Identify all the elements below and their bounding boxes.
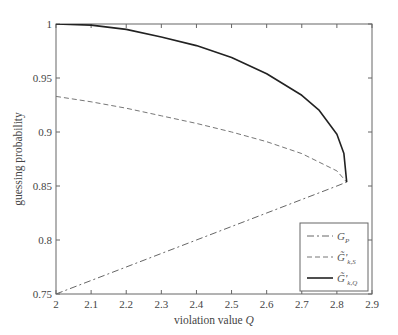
x-tick-label: 2.4 xyxy=(190,298,204,310)
x-tick-label: 2.3 xyxy=(154,298,168,310)
y-tick-label: 0.8 xyxy=(38,234,52,246)
x-tick-label: 2.9 xyxy=(365,298,379,310)
series-gks-line xyxy=(56,96,347,182)
x-tick-label: 2.6 xyxy=(260,298,274,310)
x-tick-label: 2.5 xyxy=(225,298,239,310)
y-axis-label: guessing probability xyxy=(12,112,25,206)
x-tick-label: 2.1 xyxy=(84,298,98,310)
legend: GPG̃'k,SG̃'k,Q xyxy=(300,223,368,291)
y-tick-label: 0.75 xyxy=(33,288,53,300)
y-tick-label: 1 xyxy=(47,18,53,30)
x-axis-label: violation value Q xyxy=(174,314,255,326)
x-tick-label: 2.2 xyxy=(119,298,133,310)
plot-area: 22.12.22.32.42.52.62.72.82.90.750.80.850… xyxy=(12,18,379,326)
y-tick-label: 0.95 xyxy=(33,72,53,84)
x-tick-label: 2 xyxy=(53,298,59,310)
x-tick-label: 2.8 xyxy=(330,298,344,310)
y-tick-label: 0.85 xyxy=(33,180,53,192)
chart: 22.12.22.32.42.52.62.72.82.90.750.80.850… xyxy=(0,0,398,335)
y-tick-label: 0.9 xyxy=(38,126,52,138)
x-tick-label: 2.7 xyxy=(295,298,309,310)
